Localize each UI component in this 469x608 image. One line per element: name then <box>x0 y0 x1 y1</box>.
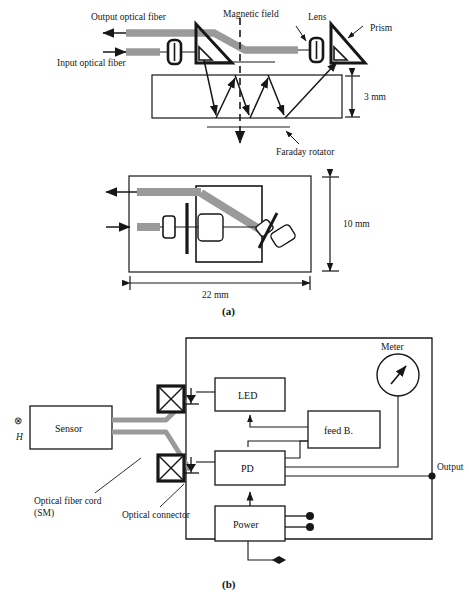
meter-label: Meter <box>381 342 405 352</box>
sensor-label: Sensor <box>55 423 83 434</box>
faraday-rotator-label: Faraday rotator <box>276 147 335 157</box>
fiber-cord-label-line1: Optical fiber cord <box>34 496 102 506</box>
lens-holder-icon <box>198 214 223 241</box>
height-label: 10 mm <box>343 219 370 229</box>
magnetic-field-label: Magnetic field <box>223 9 279 19</box>
length-label: 22 mm <box>202 290 229 300</box>
prism-label: Prism <box>370 23 393 33</box>
power-terminal-dot-1 <box>306 512 314 520</box>
ferrule-icon <box>163 216 175 238</box>
optical-connector-label: Optical connector <box>122 510 191 520</box>
thickness-label: 3 mm <box>364 92 387 102</box>
figure-container: 3 mm Output optical fiber Input optical … <box>0 0 469 608</box>
output-terminal-dot <box>428 472 435 479</box>
led-label: LED <box>238 390 257 401</box>
optical-sensor-figure: 3 mm Output optical fiber Input optical … <box>0 0 469 608</box>
feedback-label: feed B. <box>324 425 353 436</box>
lens-right-icon <box>310 38 323 62</box>
output-label: Output <box>437 462 464 472</box>
panel-b-caption: (b) <box>222 578 236 591</box>
panel-a-caption: (a) <box>222 305 235 318</box>
magnetic-field-name: H <box>15 432 24 442</box>
optical-connector-lower-icon <box>158 455 184 481</box>
output-fiber-label: Output optical fiber <box>91 12 167 22</box>
input-fiber-label: Input optical fiber <box>57 58 126 68</box>
lens-label: Lens <box>308 12 327 22</box>
pd-label: PD <box>241 463 254 474</box>
power-label: Power <box>233 519 259 530</box>
power-terminal-dot-2 <box>306 523 314 531</box>
magnetic-field-symbol-icon: ⊗ <box>14 416 22 426</box>
lens-left-icon <box>168 40 181 64</box>
fiber-cord-label-line2: (SM) <box>34 508 54 519</box>
optical-connector-upper-icon <box>158 386 184 412</box>
